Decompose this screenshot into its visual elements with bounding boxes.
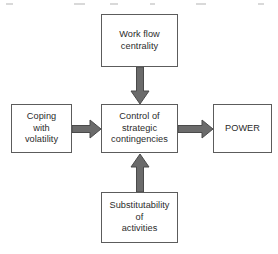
arrow-down-centrality-to-control bbox=[130, 67, 150, 105]
arrow-up-substitutability-to-control bbox=[130, 153, 150, 192]
node-power: POWER bbox=[213, 104, 272, 153]
node-label-coping-with-volatility: Coping with volatility bbox=[23, 111, 60, 145]
node-label-power: POWER bbox=[223, 123, 262, 134]
diagram-canvas: Work flow centrality Coping with volatil… bbox=[0, 0, 278, 254]
node-control-of-strategic-contingencies: Control of strategic contingencies bbox=[101, 104, 178, 153]
node-label-substitutability-of-activities: Substitutability of activities bbox=[107, 200, 171, 234]
arrow-right-control-to-power bbox=[178, 119, 214, 139]
node-substitutability-of-activities: Substitutability of activities bbox=[101, 192, 178, 243]
node-label-control-of-strategic-contingencies: Control of strategic contingencies bbox=[109, 111, 170, 145]
node-coping-with-volatility: Coping with volatility bbox=[11, 104, 72, 153]
node-label-work-flow-centrality: Work flow centrality bbox=[117, 29, 162, 52]
scan-artifact-row bbox=[0, 0, 278, 10]
node-work-flow-centrality: Work flow centrality bbox=[101, 14, 178, 67]
arrow-right-coping-to-control bbox=[72, 119, 102, 139]
